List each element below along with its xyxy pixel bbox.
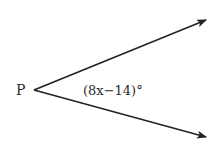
angle-diagram: P (8x−14)° (0, 0, 213, 150)
angle-label: (8x−14)° (83, 83, 143, 98)
vertex-label: P (16, 82, 25, 98)
upper-ray (34, 20, 206, 90)
